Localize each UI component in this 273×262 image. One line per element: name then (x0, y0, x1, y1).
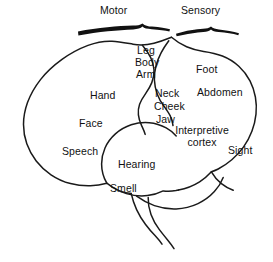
brainstem-anterior (131, 193, 162, 244)
label-foot: Foot (196, 64, 217, 76)
label-neck: Neck (155, 88, 179, 100)
label-motor: Motor (100, 5, 127, 17)
label-leg: Leg (137, 45, 155, 57)
label-speech: Speech (62, 146, 98, 158)
label-hand: Hand (90, 90, 116, 102)
cerebellum-outline (137, 177, 224, 209)
label-body: Body (135, 57, 159, 69)
motor-brace-icon (78, 23, 170, 35)
label-cheek: Cheek (154, 101, 185, 113)
label-abdomen: Abdomen (197, 87, 243, 99)
label-sensory: Sensory (181, 5, 220, 17)
brain-diagram: Motor Sensory Leg Body Arm Foot Abdomen … (0, 0, 273, 262)
label-sight: Sight (228, 145, 252, 157)
label-interpretive-cortex: Interpretive cortex (172, 124, 232, 148)
label-smell: Smell (110, 183, 137, 195)
label-hearing: Hearing (118, 159, 155, 171)
occipital-outline (179, 172, 234, 190)
brain-illustration (0, 0, 273, 262)
lateral-sulcus (102, 123, 177, 184)
label-arm: Arm (136, 69, 156, 81)
label-face: Face (79, 118, 103, 130)
sensory-brace-icon (176, 27, 239, 37)
